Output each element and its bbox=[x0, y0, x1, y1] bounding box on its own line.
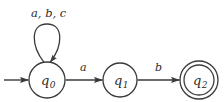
state-q1-label-subscript: 1 bbox=[123, 80, 129, 90]
edge-q1-q2-label: b bbox=[155, 61, 162, 74]
state-q2-label-subscript: 2 bbox=[201, 80, 208, 90]
edge-q0-q1-label: a bbox=[80, 61, 87, 74]
automaton-diagram: q0 q1 q2 a, b, c a b bbox=[0, 0, 224, 102]
state-q2-label-base: q bbox=[193, 73, 201, 88]
self-loop-q0 bbox=[34, 24, 60, 63]
automaton-canvas: q0 q1 q2 a, b, c a b bbox=[0, 0, 224, 102]
state-q0-label-base: q bbox=[41, 73, 49, 88]
self-loop-label: a, b, c bbox=[31, 6, 67, 20]
state-q0-label-subscript: 0 bbox=[50, 80, 56, 90]
state-q1-label-base: q bbox=[114, 73, 122, 88]
